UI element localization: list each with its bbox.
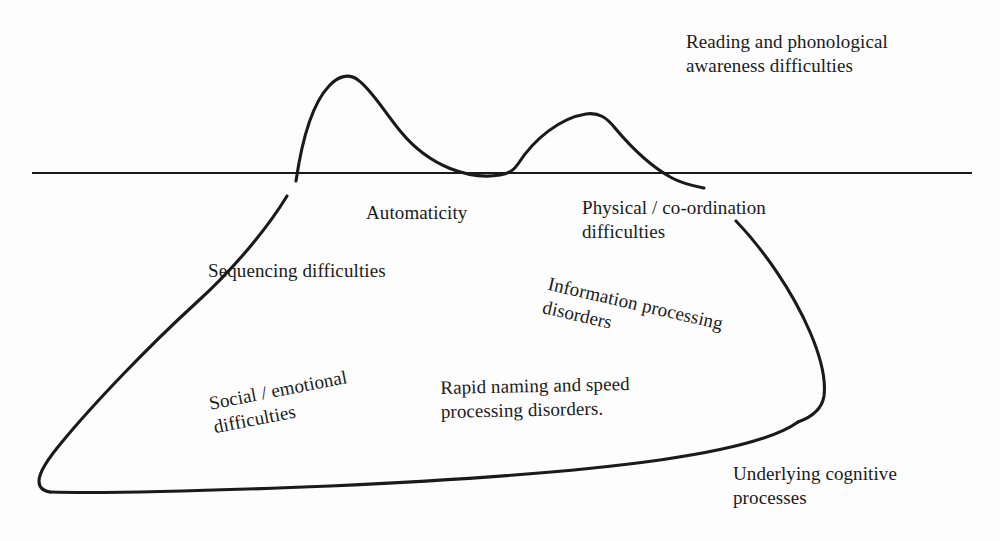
iceberg-bottom-edge <box>50 422 798 493</box>
label-physical-co-ordination-difficulties: Physical / co-ordination difficulties <box>582 196 766 245</box>
iceberg-left-flank-below-water <box>39 196 287 492</box>
label-automaticity: Automaticity <box>366 201 467 225</box>
iceberg-right-flank-below-water <box>736 221 824 422</box>
label-sequencing-difficulties: Sequencing difficulties <box>208 259 386 283</box>
iceberg-peaks-above-water <box>296 76 704 188</box>
label-reading-and-phonological-awareness-difficulties: Reading and phonological awareness diffi… <box>686 30 888 79</box>
iceberg-outline-graphic <box>0 0 1000 541</box>
iceberg-diagram: Reading and phonological awareness diffi… <box>0 0 1000 541</box>
label-underlying-cognitive-processes: Underlying cognitive processes <box>733 462 897 511</box>
label-rapid-naming-and-speed-processing-disorders: Rapid naming and speed processing disord… <box>440 372 631 425</box>
